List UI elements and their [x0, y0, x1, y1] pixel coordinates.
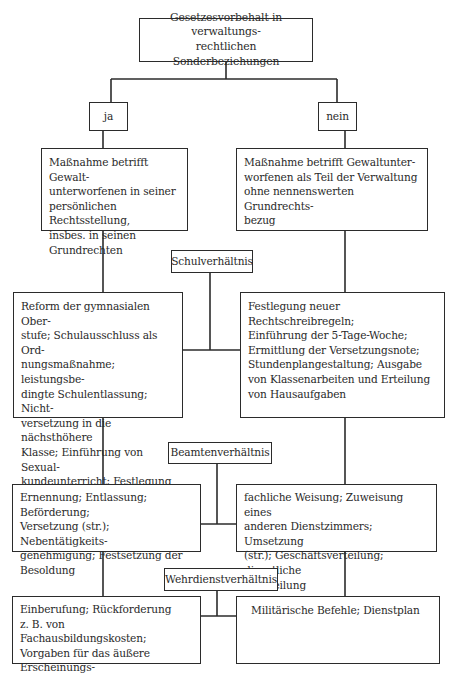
relation-wehrdienst-yes-node: Einberufung; Rückforderung z. B. von Fac…	[12, 596, 201, 664]
relation-beamte-no-node: fachliche Weisung; Zuweisung eines ander…	[236, 484, 437, 552]
root-node: Gesetzesvorbehalt in verwaltungs- rechtl…	[139, 18, 313, 62]
criteria-yes-node: Maßnahme betrifft Gewalt- unterworfenen …	[41, 148, 188, 231]
relation-label-beamte: Beamtenverhältnis	[168, 442, 272, 464]
relation-label-schule: Schulverhältnis	[171, 250, 253, 273]
relation-schule-yes-node: Reform der gymnasialen Ober- stufe; Schu…	[13, 292, 183, 418]
branch-no-node: nein	[318, 102, 357, 131]
relation-wehrdienst-no-node: Militärische Befehle; Dienstplan	[236, 596, 440, 664]
criteria-no-node: Maßnahme betrifft Gewaltunter- worfenen …	[236, 148, 428, 231]
relation-schule-no-node: Festlegung neuer Rechtschreibregeln; Ein…	[240, 292, 445, 418]
relation-label-wehrdienst: Wehrdienstverhältnis	[164, 568, 278, 591]
branch-yes-node: ja	[89, 102, 128, 131]
flowchart-canvas: Gesetzesvorbehalt in verwaltungs- rechtl…	[0, 0, 459, 675]
relation-beamte-yes-node: Ernennung; Entlassung; Beförderung; Vers…	[12, 484, 201, 552]
